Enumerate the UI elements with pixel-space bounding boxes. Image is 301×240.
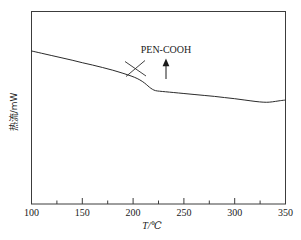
x-tick-label-2: 200 [126, 207, 141, 218]
x-tick-label-4: 300 [227, 207, 242, 218]
chart-canvas: 100 150 200 250 300 350 T/℃ 热流/mW PEN-CO… [0, 0, 301, 240]
dsc-thermogram-figure: 100 150 200 250 300 350 T/℃ 热流/mW PEN-CO… [0, 0, 301, 240]
x-tick-label-1: 150 [75, 207, 90, 218]
x-axis-minor-ticks [57, 201, 260, 205]
plot-frame [32, 12, 286, 205]
x-tick-label-5: 350 [278, 207, 293, 218]
y-axis-title: 热流/mW [8, 93, 19, 132]
transition-arrow-icon [163, 59, 170, 80]
x-tick-label-0: 100 [24, 207, 39, 218]
x-axis-title: T/℃ [142, 220, 162, 231]
sample-annotation-label: PEN-COOH [141, 44, 192, 55]
x-tick-label-3: 250 [176, 207, 191, 218]
onset-tangent-lines [125, 61, 146, 77]
heat-flow-curve [32, 51, 286, 102]
